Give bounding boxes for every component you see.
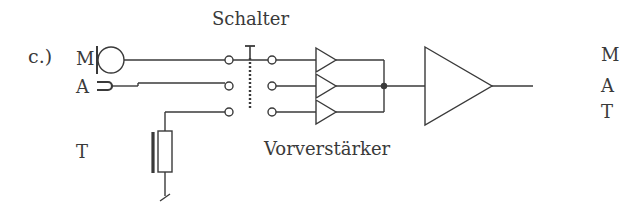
switch-actuator-icon bbox=[245, 46, 255, 110]
microphone-icon bbox=[97, 46, 124, 74]
pickup-jack-icon bbox=[97, 82, 112, 90]
main-amplifier-icon bbox=[425, 47, 492, 125]
circuit-diagram bbox=[0, 0, 634, 215]
preamp-icons bbox=[316, 48, 336, 124]
tape-head-icon bbox=[153, 131, 172, 173]
